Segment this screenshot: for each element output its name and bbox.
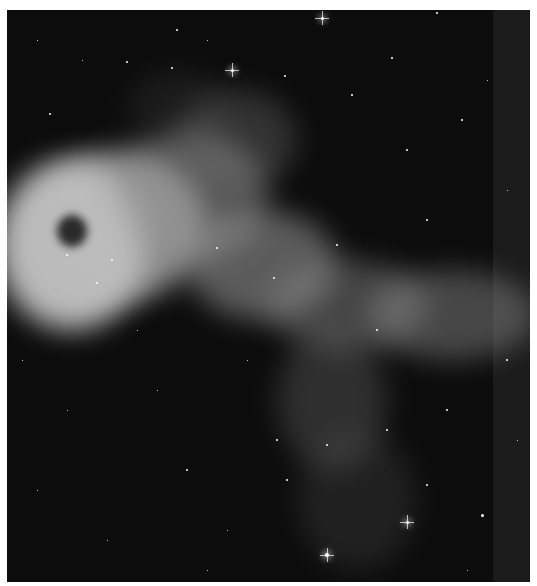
- nebula-cloud: [367, 270, 530, 360]
- star: [336, 244, 338, 246]
- star: [107, 540, 108, 541]
- star: [391, 57, 393, 59]
- star: [22, 360, 23, 361]
- star: [176, 29, 178, 31]
- star: [137, 330, 138, 331]
- nebula-photograph: [7, 10, 530, 582]
- star: [67, 410, 68, 411]
- star: [157, 390, 158, 391]
- star: [186, 469, 188, 471]
- star: [406, 149, 408, 151]
- star: [49, 113, 51, 115]
- star: [351, 94, 353, 96]
- star: [446, 409, 448, 411]
- star: [481, 514, 484, 517]
- star: [506, 359, 508, 361]
- star: [227, 530, 228, 531]
- star: [82, 60, 83, 61]
- star: [386, 429, 388, 431]
- star: [111, 259, 113, 261]
- diffraction-spike: [232, 63, 233, 77]
- diffraction-spike: [327, 548, 328, 562]
- star: [66, 254, 68, 256]
- star: [286, 479, 288, 481]
- diffraction-spike: [322, 11, 323, 25]
- star: [284, 75, 286, 77]
- star: [126, 61, 128, 63]
- star: [461, 119, 463, 121]
- star: [207, 570, 208, 571]
- star: [247, 360, 248, 361]
- star: [273, 277, 275, 279]
- star: [376, 329, 378, 331]
- star: [426, 484, 428, 486]
- star: [326, 444, 328, 446]
- star: [507, 190, 508, 191]
- nebula-cavity: [57, 215, 87, 247]
- star: [207, 40, 208, 41]
- diffraction-spike: [407, 515, 408, 529]
- star: [517, 440, 518, 441]
- star: [436, 12, 438, 14]
- star: [216, 247, 218, 249]
- star: [171, 67, 173, 69]
- star: [96, 282, 98, 284]
- star: [426, 219, 428, 221]
- star: [276, 439, 278, 441]
- star: [467, 570, 468, 571]
- nebula-cloud: [297, 430, 417, 570]
- star: [487, 80, 488, 81]
- nebula-cloud: [127, 70, 227, 150]
- star: [37, 40, 38, 41]
- star: [37, 490, 38, 491]
